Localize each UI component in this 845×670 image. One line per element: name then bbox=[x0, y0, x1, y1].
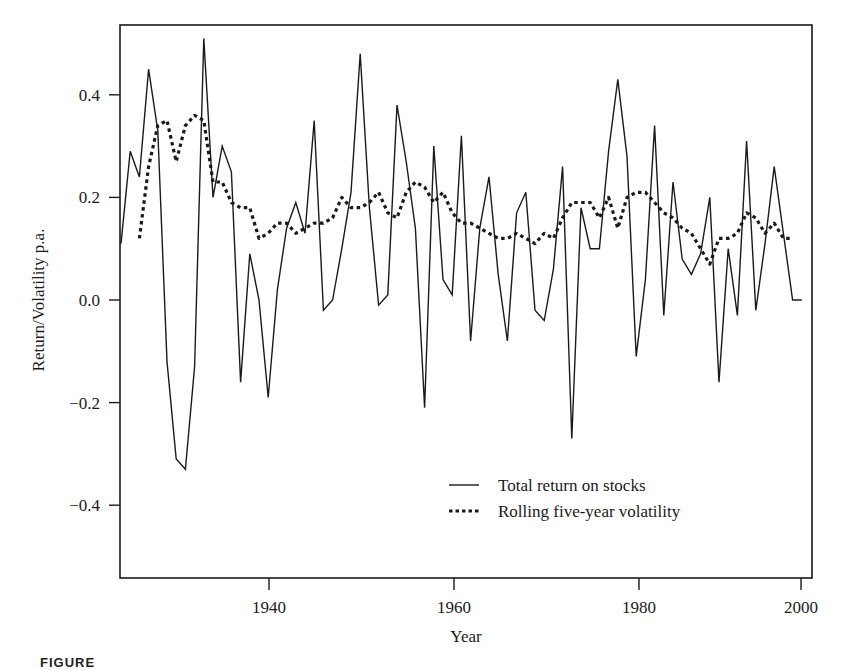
legend-label-total-return: Total return on stocks bbox=[498, 476, 646, 495]
y-tick-label: 0.4 bbox=[79, 86, 101, 105]
x-tick-label: 2000 bbox=[784, 598, 818, 617]
figure-caption: FIGURE bbox=[40, 655, 95, 670]
y-axis: 0.40.20.0−0.2−0.4 bbox=[69, 86, 120, 515]
y-axis-title: Return/Volatility p.a. bbox=[29, 229, 48, 372]
plot-frame bbox=[120, 25, 812, 578]
y-tick-label: 0.0 bbox=[79, 291, 100, 310]
legend: Total return on stocks Rolling five-year… bbox=[449, 476, 681, 521]
x-tick-label: 1940 bbox=[252, 598, 286, 617]
x-axis: 1940196019802000 bbox=[252, 578, 818, 617]
legend-label-rolling-volatility: Rolling five-year volatility bbox=[498, 502, 681, 521]
x-tick-label: 1980 bbox=[622, 598, 656, 617]
x-tick-label: 1960 bbox=[437, 598, 471, 617]
y-tick-label: −0.4 bbox=[69, 496, 100, 515]
y-tick-label: −0.2 bbox=[69, 394, 100, 413]
y-tick-label: 0.2 bbox=[79, 188, 100, 207]
x-axis-title: Year bbox=[450, 627, 482, 646]
total-return-line bbox=[121, 38, 802, 469]
